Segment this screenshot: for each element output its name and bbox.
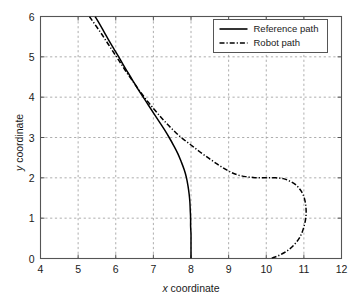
chart-canvas: Reference pathRobot path	[0, 0, 357, 305]
y-axis-title: y coordinate	[13, 113, 25, 170]
y-tick-label: 1	[29, 212, 35, 224]
x-tick-label: 12	[336, 263, 348, 275]
legend-label-robot-path: Robot path	[254, 37, 300, 48]
legend: Reference pathRobot path	[214, 20, 328, 53]
y-axis-title-text: coordinate	[13, 113, 25, 165]
x-tick-label: 7	[150, 263, 156, 275]
y-tick-label: 5	[29, 51, 35, 63]
y-tick-label: 2	[29, 172, 35, 184]
legend-label-reference-path: Reference path	[254, 23, 319, 34]
x-tick-label: 11	[298, 263, 309, 275]
y-tick-label: 0	[29, 253, 35, 265]
x-tick-label: 8	[188, 263, 194, 275]
x-tick-label: 9	[226, 263, 232, 275]
x-tick-label: 4	[38, 263, 44, 275]
x-axis-title: x coordinate	[162, 282, 219, 294]
x-tick-label: 10	[260, 263, 272, 275]
x-tick-label: 5	[75, 263, 81, 275]
y-axis-var: y	[13, 165, 25, 170]
x-tick-label: 6	[113, 263, 119, 275]
y-tick-label: 6	[29, 11, 35, 23]
x-axis-title-text: coordinate	[168, 282, 220, 294]
figure-container: Reference pathRobot path 456789101112012…	[0, 0, 357, 305]
y-tick-label: 4	[29, 91, 35, 103]
y-tick-label: 3	[29, 132, 35, 144]
